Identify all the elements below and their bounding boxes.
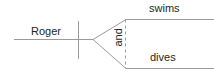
syntax-diagram: Roger swims dives and xyxy=(0,0,214,76)
subject-label: Roger xyxy=(31,26,61,37)
conjunction-label: and xyxy=(113,36,135,47)
upper-predicate-label: swims xyxy=(149,3,180,14)
diagram-lines xyxy=(0,0,214,76)
lower-predicate-label: dives xyxy=(150,52,176,63)
